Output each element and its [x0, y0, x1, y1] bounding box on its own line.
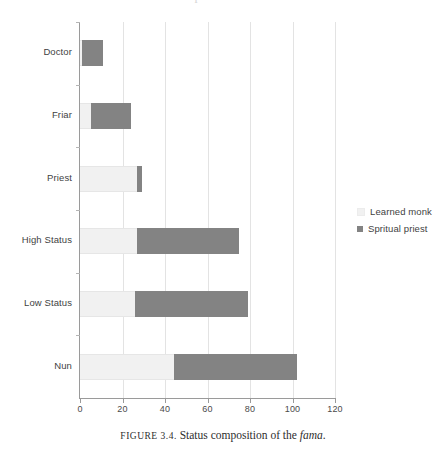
- bar-segment-learned-monk: [80, 166, 137, 192]
- x-tick-label-100: 100: [278, 404, 308, 414]
- caption-period: .: [323, 429, 326, 441]
- legend-item-learned-monk[interactable]: Learned monk: [357, 203, 445, 220]
- legend-label: Spritual priest: [368, 223, 428, 234]
- bar-segment-spritual-priest: [137, 228, 239, 254]
- bar-segment-spritual-priest: [137, 166, 141, 192]
- y-tick-mark-5: [76, 335, 80, 336]
- x-tick-mark-80: [250, 398, 251, 403]
- gridline-x-40: [165, 22, 166, 398]
- figure-container: 020406080100120 DoctorFriarPriestHigh St…: [0, 0, 446, 455]
- x-tick-label-80: 80: [235, 404, 265, 414]
- x-tick-mark-0: [80, 398, 81, 403]
- gridline-x-80: [250, 22, 251, 398]
- y-tick-mark-3: [76, 210, 80, 211]
- bar-low-status: [0, 291, 446, 317]
- x-tick-mark-100: [293, 398, 294, 403]
- y-tick-mark-1: [76, 85, 80, 86]
- x-tick-label-0: 0: [65, 404, 95, 414]
- bar-segment-learned-monk: [80, 103, 91, 129]
- gridline-x-120: [335, 22, 336, 398]
- x-tick-label-20: 20: [108, 404, 138, 414]
- caption-italic-term: fama: [300, 429, 323, 441]
- y-tick-mark-0: [76, 22, 80, 23]
- bar-nun: [0, 354, 446, 380]
- x-tick-mark-40: [165, 398, 166, 403]
- y-tick-mark-2: [76, 147, 80, 148]
- legend-item-spritual-priest[interactable]: Spritual priest: [357, 220, 445, 237]
- bar-doctor: [0, 40, 446, 66]
- x-tick-label-40: 40: [150, 404, 180, 414]
- bar-segment-spritual-priest: [174, 354, 297, 380]
- bar-segment-learned-monk: [80, 354, 174, 380]
- bar-segment-learned-monk: [80, 228, 137, 254]
- bar-priest: [0, 166, 446, 192]
- bar-friar: [0, 103, 446, 129]
- x-tick-mark-60: [208, 398, 209, 403]
- gridline-x-60: [208, 22, 209, 398]
- figure-caption: FIGURE 3.4. Status composition of the fa…: [0, 429, 446, 441]
- bar-segment-spritual-priest: [91, 103, 131, 129]
- gridline-x-20: [123, 22, 124, 398]
- bar-segment-learned-monk: [80, 291, 135, 317]
- legend-swatch-icon: [357, 226, 363, 232]
- gridline-x-0: [80, 22, 81, 398]
- y-tick-mark-4: [76, 273, 80, 274]
- caption-body: Status composition of the: [180, 429, 297, 441]
- x-tick-mark-120: [335, 398, 336, 403]
- x-tick-label-120: 120: [320, 404, 350, 414]
- x-tick-mark-20: [123, 398, 124, 403]
- bar-segment-spritual-priest: [135, 291, 248, 317]
- gridline-x-100: [293, 22, 294, 398]
- plot-area: [80, 22, 335, 398]
- caption-figure-number: FIGURE 3.4.: [120, 431, 176, 441]
- legend-swatch-icon: [357, 208, 365, 216]
- x-tick-label-60: 60: [193, 404, 223, 414]
- bar-segment-spritual-priest: [82, 40, 103, 66]
- chart-legend: Learned monkSpritual priest: [357, 203, 445, 237]
- legend-label: Learned monk: [370, 206, 432, 217]
